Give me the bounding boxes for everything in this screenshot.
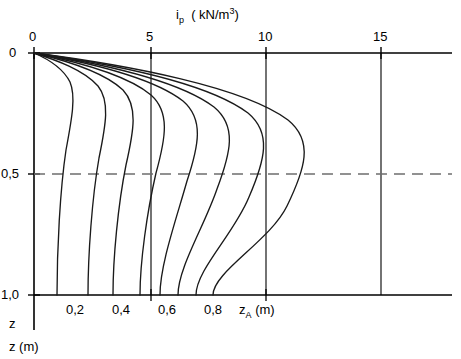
ytick-label-0: 0 <box>9 46 16 59</box>
ytick-label-10: 1,0 <box>1 288 19 301</box>
xtick-label-5: 5 <box>146 30 153 43</box>
xtick-label-10: 10 <box>258 30 272 43</box>
secondary-axis-label: zA (m) <box>239 303 275 320</box>
za-tick-label-08: 0,8 <box>204 303 222 316</box>
bottom-axis-label: z <box>9 317 16 330</box>
za-tick-label-02: 0,2 <box>66 303 84 316</box>
secondary-axis-subscript: A <box>246 310 252 320</box>
xtick-label-15: 15 <box>373 30 387 43</box>
chart-figure: ip ( kN/m3) <box>0 0 461 359</box>
za-tick-label-06: 0,6 <box>158 303 176 316</box>
curve-za-03 <box>34 53 133 295</box>
axis-caption: z (m) <box>9 340 39 353</box>
za-tick-label-04: 0,4 <box>112 303 130 316</box>
xtick-label-0: 0 <box>29 30 36 43</box>
ytick-label-05: 0,5 <box>1 167 19 180</box>
secondary-axis-units: (m) <box>255 302 275 317</box>
